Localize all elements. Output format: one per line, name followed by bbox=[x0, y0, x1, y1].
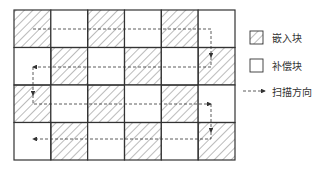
compensation-block bbox=[161, 48, 198, 86]
embed-block bbox=[198, 48, 235, 86]
embed-block bbox=[125, 48, 162, 86]
legend-embed-label: 嵌入块 bbox=[272, 30, 302, 45]
compensation-block bbox=[88, 123, 125, 161]
compensation-block bbox=[88, 48, 125, 86]
embed-block bbox=[198, 123, 235, 161]
embed-block bbox=[125, 123, 162, 161]
embed-block bbox=[51, 123, 88, 161]
compensation-block bbox=[198, 85, 235, 123]
legend-scan-label: 扫描方向 bbox=[272, 84, 312, 99]
grid-cells bbox=[14, 10, 235, 160]
compensation-block bbox=[14, 48, 51, 86]
legend-comp-swatch bbox=[250, 59, 263, 72]
legend-embed-swatch bbox=[250, 31, 263, 44]
compensation-block bbox=[14, 123, 51, 161]
legend-comp-label: 补偿块 bbox=[272, 58, 302, 73]
embed-block bbox=[51, 48, 88, 86]
compensation-block bbox=[161, 123, 198, 161]
